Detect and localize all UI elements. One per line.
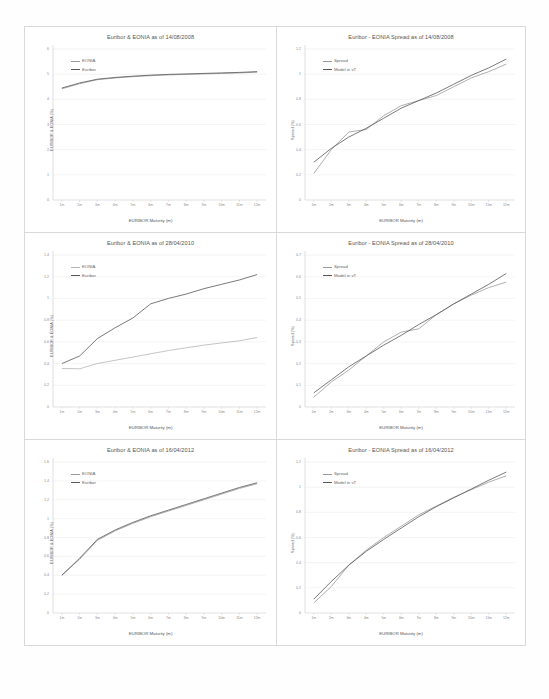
y-axis-label: Spread (%) xyxy=(290,326,295,346)
series-line xyxy=(314,476,507,603)
y-tick-label: 1.2 xyxy=(277,47,301,51)
y-tick-label: 1.4 xyxy=(25,479,49,483)
legend-label: EONIA xyxy=(82,57,95,66)
legend-item: Spread xyxy=(323,57,356,66)
series-line xyxy=(314,59,507,162)
x-tick-label: 2m xyxy=(77,616,82,620)
y-tick-label: 2 xyxy=(25,148,49,152)
y-tick-label: 0.7 xyxy=(277,253,301,257)
y-tick-label: 0.1 xyxy=(277,383,301,387)
x-tick-label: 4m xyxy=(113,616,118,620)
legend-swatch-icon xyxy=(323,267,332,268)
x-tick-label: 4m xyxy=(364,410,369,414)
legend-label: Model in vT xyxy=(334,272,356,281)
x-tick-label: 5m xyxy=(381,616,386,620)
y-tick-label: 1 xyxy=(25,173,49,177)
x-tick-label: 12m xyxy=(503,203,510,207)
legend-swatch-icon xyxy=(71,69,80,70)
y-tick-label: 0.6 xyxy=(277,123,301,127)
legend-swatch-icon xyxy=(323,275,332,276)
legend-label: EONIA xyxy=(82,263,95,272)
x-tick-label: 12m xyxy=(503,410,510,414)
chart-legend: SpreadModel in vT xyxy=(323,57,356,74)
legend-label: Euribor xyxy=(82,479,96,488)
y-tick-label: 6 xyxy=(25,47,49,51)
legend-label: Euribor xyxy=(82,66,96,75)
x-tick-label: 1m xyxy=(311,410,316,414)
x-axis-label: EURIBOR Maturity (m) xyxy=(25,218,276,223)
x-axis-label: EURIBOR Maturity (m) xyxy=(277,425,525,430)
x-tick-label: 5m xyxy=(381,410,386,414)
x-axis-label: EURIBOR Maturity (m) xyxy=(277,631,525,636)
legend-item: EONIA xyxy=(71,57,96,66)
x-tick-label: 6m xyxy=(148,616,153,620)
x-tick-label: 7m xyxy=(166,616,171,620)
legend-swatch-icon xyxy=(323,482,332,483)
y-axis-label: EURIBOR & EONIA (%) xyxy=(49,522,54,564)
x-tick-label: 8m xyxy=(184,616,189,620)
y-tick-label: 0.8 xyxy=(25,318,49,322)
y-tick-label: 3 xyxy=(25,123,49,127)
y-tick-label: 0 xyxy=(25,405,49,409)
chart-svg xyxy=(25,440,276,645)
x-tick-label: 4m xyxy=(113,410,118,414)
x-tick-label: 5m xyxy=(131,616,136,620)
y-tick-label: 0.2 xyxy=(25,592,49,596)
x-tick-label: 2m xyxy=(329,410,334,414)
legend-swatch-icon xyxy=(71,482,80,483)
x-tick-label: 1m xyxy=(60,203,65,207)
x-tick-label: 2m xyxy=(329,616,334,620)
x-tick-label: 7m xyxy=(416,616,421,620)
y-tick-label: 0.4 xyxy=(277,561,301,565)
legend-swatch-icon xyxy=(323,474,332,475)
document-page: Euribor & EONIA as of 14/08/2008 6543210… xyxy=(0,0,549,699)
y-tick-label: 0.5 xyxy=(277,296,301,300)
x-tick-label: 7m xyxy=(166,203,171,207)
chart-legend: EONIAEuribor xyxy=(71,470,96,487)
x-tick-label: 3m xyxy=(95,410,100,414)
x-tick-label: 11m xyxy=(486,410,492,414)
y-tick-label: 1.2 xyxy=(25,275,49,279)
plot-area: 0.70.60.50.40.30.20.101m2m3m4m5m6m7m8m9m… xyxy=(277,233,525,439)
x-tick-label: 10m xyxy=(218,203,225,207)
chart-svg xyxy=(277,27,525,232)
y-tick-label: 0.6 xyxy=(25,340,49,344)
x-tick-label: 5m xyxy=(381,203,386,207)
x-tick-label: 6m xyxy=(399,616,404,620)
y-tick-label: 0 xyxy=(25,198,49,202)
x-tick-label: 6m xyxy=(148,203,153,207)
y-axis-label: EURIBOR & EONIA (%) xyxy=(49,315,54,357)
legend-swatch-icon xyxy=(71,275,80,276)
chart-svg xyxy=(25,233,276,439)
y-tick-label: 0.2 xyxy=(25,383,49,387)
legend-swatch-icon xyxy=(323,69,332,70)
chart-panel-spread-2008: Euribor - EONIA Spread as of 14/08/2008 … xyxy=(276,26,526,233)
x-tick-label: 8m xyxy=(184,410,189,414)
x-tick-label: 3m xyxy=(346,410,351,414)
y-tick-label: 0.4 xyxy=(25,362,49,366)
x-tick-label: 9m xyxy=(202,203,207,207)
x-tick-label: 4m xyxy=(113,203,118,207)
y-tick-label: 1.2 xyxy=(277,460,301,464)
x-tick-label: 11m xyxy=(236,410,242,414)
x-tick-label: 3m xyxy=(95,616,100,620)
x-tick-label: 2m xyxy=(77,203,82,207)
y-tick-label: 0.8 xyxy=(277,510,301,514)
plot-area: 1.61.41.210.80.60.40.201m2m3m4m5m6m7m8m9… xyxy=(25,440,276,645)
x-tick-label: 5m xyxy=(131,410,136,414)
x-tick-label: 7m xyxy=(166,410,171,414)
legend-item: Model in vT xyxy=(323,272,356,281)
x-tick-label: 9m xyxy=(451,616,456,620)
x-tick-label: 9m xyxy=(202,410,207,414)
x-tick-label: 12m xyxy=(503,616,510,620)
x-tick-label: 3m xyxy=(95,203,100,207)
y-tick-label: 1 xyxy=(25,517,49,521)
series-line xyxy=(62,483,257,575)
y-tick-label: 0.8 xyxy=(25,536,49,540)
series-line xyxy=(62,338,257,369)
x-tick-label: 12m xyxy=(254,203,261,207)
y-tick-label: 1.4 xyxy=(25,253,49,257)
x-tick-label: 3m xyxy=(346,203,351,207)
x-tick-label: 8m xyxy=(184,203,189,207)
x-tick-label: 11m xyxy=(236,616,242,620)
